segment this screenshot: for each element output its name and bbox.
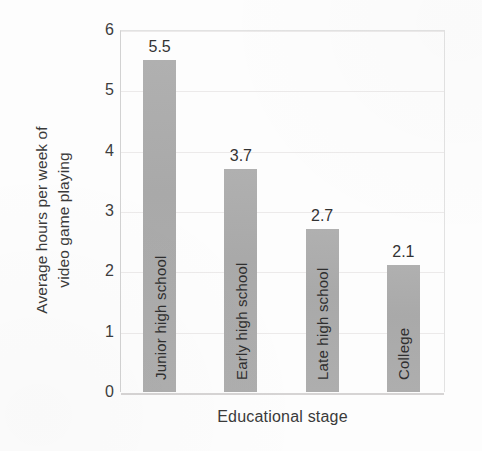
bar[interactable]: College [387,265,420,392]
bar-category-label: Late high school [314,268,331,380]
bar-value-label: 2.1 [392,243,414,261]
y-axis-tick-label: 0 [88,383,114,401]
y-axis-tick-labels: 0123456 [86,0,114,451]
bar-group: College2.1 [387,30,420,392]
plot-area: Junior high school5.5Early high school3.… [120,30,445,392]
bar-category-label: Early high school [232,262,249,380]
bar-value-label: 3.7 [230,147,252,165]
y-axis-title-line-2: video game playing [53,126,75,313]
bar-group: Late high school2.7 [306,30,339,392]
y-axis-tick-label: 1 [88,323,114,341]
y-axis-tick-label: 3 [88,202,114,220]
x-axis-line [121,393,444,395]
y-axis-tick-label: 5 [88,81,114,99]
bar-category-label: Junior high school [151,255,168,380]
bar[interactable]: Junior high school [143,60,176,392]
y-axis-tick-label: 6 [88,21,114,39]
y-axis-title-line-1: Average hours per week of [31,126,53,313]
x-axis-title: Educational stage [120,408,445,426]
bar-value-label: 2.7 [311,207,333,225]
y-axis-tick-label: 4 [88,142,114,160]
bar-group: Early high school3.7 [224,30,257,392]
bar[interactable]: Early high school [224,169,257,392]
bar-series: Junior high school5.5Early high school3.… [121,31,444,392]
y-axis-tick-label: 2 [88,262,114,280]
bar-category-label: College [395,328,412,380]
y-axis-title-text: Average hours per week of video game pla… [31,126,76,313]
plot-inner: Junior high school5.5Early high school3.… [121,31,444,392]
bar-value-label: 5.5 [149,38,171,56]
chart-figure: Average hours per week of video game pla… [0,0,482,451]
bar-group: Junior high school5.5 [143,30,176,392]
bar[interactable]: Late high school [306,229,339,392]
y-axis-title: Average hours per week of video game pla… [18,60,88,380]
